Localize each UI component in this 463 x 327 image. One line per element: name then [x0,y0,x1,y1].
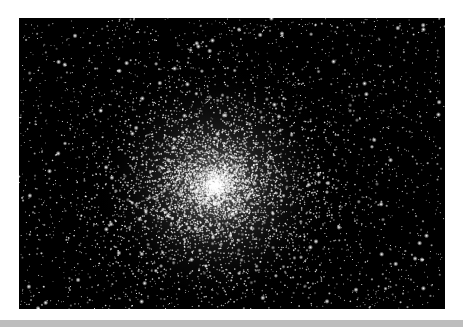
bottom-bar [0,320,463,327]
star-cluster-photo: Dense globular star cluster against blac… [19,18,445,309]
starfield-canvas [19,18,445,309]
